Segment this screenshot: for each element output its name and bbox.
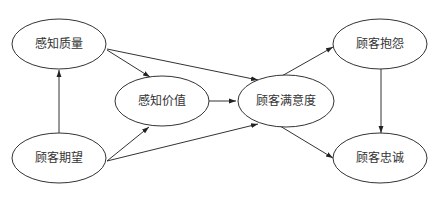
- node-label: 感知价值: [138, 93, 186, 108]
- node-label: 顾客忠诚: [356, 150, 404, 165]
- diagram-canvas: 感知质量 感知价值 顾客期望 顾客满意度 顾客抱怨 顾客忠诚: [0, 0, 440, 197]
- node-customer-loyalty: 顾客忠诚: [333, 133, 427, 183]
- node-customer-expectation: 顾客期望: [12, 133, 106, 183]
- node-customer-complaint: 顾客抱怨: [333, 19, 427, 69]
- edge-satisfaction-to-loyalty: [280, 126, 333, 158]
- node-perceived-quality: 感知质量: [12, 19, 106, 69]
- node-label: 顾客满意度: [256, 93, 316, 108]
- edge-quality-to-value: [107, 50, 150, 77]
- edge-satisfaction-to-complaint: [280, 47, 333, 77]
- node-label: 顾客抱怨: [356, 36, 404, 51]
- node-label: 感知质量: [35, 36, 83, 51]
- node-customer-satisfaction: 顾客满意度: [238, 75, 334, 127]
- node-label: 顾客期望: [35, 150, 83, 165]
- node-perceived-value: 感知价值: [115, 76, 209, 126]
